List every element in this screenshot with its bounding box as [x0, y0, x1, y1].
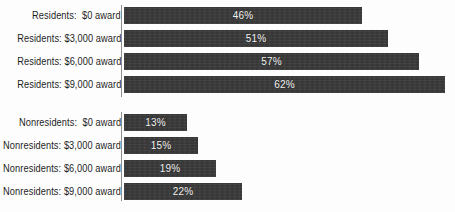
bar-row: Residents: $6,000 award57% — [0, 53, 455, 70]
bar-value-label: 22% — [124, 183, 242, 200]
bar-value-label: 15% — [124, 137, 198, 154]
category-label: Residents: $6,000 award — [17, 53, 121, 70]
bar-value-label: 62% — [124, 76, 445, 93]
category-label: Nonresidents: $9,000 award — [3, 183, 121, 200]
bar-row: Residents: $3,000 award51% — [0, 30, 455, 47]
bar-row: Nonresidents: $9,000 award22% — [0, 183, 455, 200]
category-axis-line — [121, 112, 122, 201]
bar-row: Nonresidents: $6,000 award19% — [0, 160, 455, 177]
plot-area: Residents: $0 award46%Residents: $3,000 … — [0, 0, 455, 212]
category-axis-line — [121, 5, 122, 97]
category-label: Residents: $0 award — [32, 7, 121, 24]
category-label: Nonresidents: $3,000 award — [3, 137, 121, 154]
bar-chart: Residents: $0 award46%Residents: $3,000 … — [0, 0, 455, 212]
bar-value-label: 13% — [124, 114, 187, 131]
bar-row: Nonresidents: $0 award13% — [0, 114, 455, 131]
category-label: Residents: $9,000 award — [17, 76, 121, 93]
bar-row: Residents: $0 award46% — [0, 7, 455, 24]
bar-value-label: 19% — [124, 160, 216, 177]
bar-row: Nonresidents: $3,000 award15% — [0, 137, 455, 154]
bar-value-label: 51% — [124, 30, 388, 47]
bar-row: Residents: $9,000 award62% — [0, 76, 455, 93]
bar-value-label: 46% — [124, 7, 362, 24]
category-label: Residents: $3,000 award — [17, 30, 121, 47]
category-label: Nonresidents: $6,000 award — [3, 160, 121, 177]
bar-value-label: 57% — [124, 53, 419, 70]
category-label: Nonresidents: $0 award — [19, 114, 121, 131]
